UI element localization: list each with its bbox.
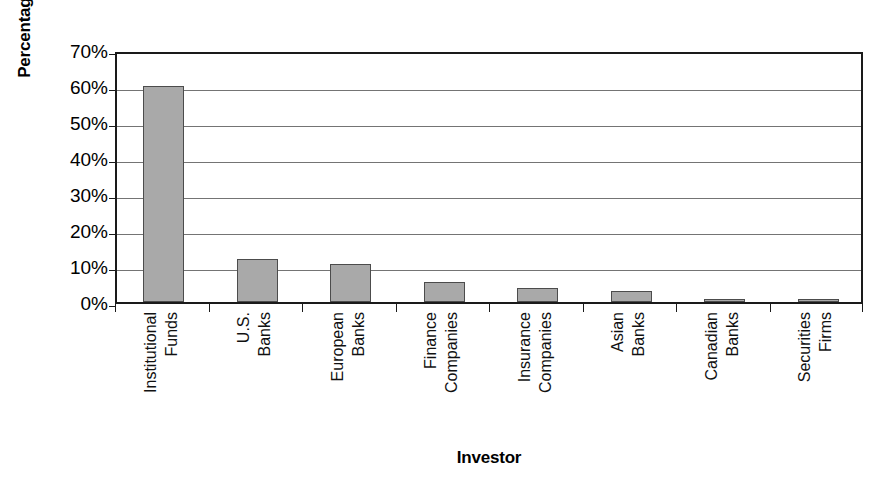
y-axis-tick-label: 20% <box>44 222 108 241</box>
x-axis-category-label-line2: Banks <box>348 312 369 442</box>
x-axis-category-label-line1: European <box>327 312 348 442</box>
x-axis-tick-mark <box>770 304 771 312</box>
x-axis-tick-mark <box>489 304 490 312</box>
x-axis-tick-mark <box>676 304 677 312</box>
x-axis-category-label-line2: Firms <box>815 312 836 442</box>
x-axis-category-label-line1: Institutional <box>140 312 161 442</box>
x-axis-category-label: FinanceCompanies <box>420 312 464 442</box>
y-axis-tick-mark <box>109 162 116 163</box>
x-axis-title: Investor <box>115 448 863 468</box>
x-axis-tick-mark <box>396 304 397 312</box>
y-axis-tick-mark <box>109 90 116 91</box>
x-axis-category-label-line2: Funds <box>161 312 182 442</box>
x-axis-category-labels: InstitutionalFundsU.S.BanksEuropeanBanks… <box>115 314 863 444</box>
x-axis-tick-mark <box>862 304 863 312</box>
x-axis-tick-mark <box>583 304 584 312</box>
x-axis-category-label-line1: Canadian <box>701 312 722 442</box>
x-axis-category-label-line1: Securities <box>794 312 815 442</box>
bar <box>611 291 652 302</box>
x-axis-category-label: CanadianBanks <box>701 312 745 442</box>
x-axis-category-label-line1: Finance <box>420 312 441 442</box>
bar <box>330 264 371 302</box>
y-axis-tick-label: 10% <box>44 258 108 277</box>
x-axis-tick-mark <box>115 304 116 312</box>
plot-area <box>115 52 863 304</box>
figure-caption-sliver <box>8 477 268 486</box>
y-axis-tick-label: 60% <box>44 78 108 97</box>
bar <box>517 288 558 302</box>
bar <box>798 299 839 302</box>
y-axis-tick-label: 0% <box>44 294 108 313</box>
x-axis-category-label: EuropeanBanks <box>327 312 371 442</box>
y-axis-title: Percentage <box>14 0 36 118</box>
y-axis-tick-label: 50% <box>44 114 108 133</box>
y-axis-tick-label: 30% <box>44 186 108 205</box>
x-axis-tick-marks <box>115 304 863 314</box>
x-axis-category-label: InsuranceCompanies <box>514 312 558 442</box>
x-axis-category-label-line2: Banks <box>254 312 275 442</box>
y-axis-tick-mark <box>109 198 116 199</box>
y-axis-tick-labels: 0%10%20%30%40%50%60%70% <box>38 0 108 486</box>
x-axis-category-label-line2: Banks <box>722 312 743 442</box>
y-axis-tick-label: 40% <box>44 150 108 169</box>
bar <box>704 299 745 302</box>
x-axis-category-label: U.S.Banks <box>233 312 277 442</box>
bar-chart-figure: Percentage 0%10%20%30%40%50%60%70% Insti… <box>0 0 886 486</box>
x-axis-tick-mark <box>302 304 303 312</box>
x-axis-category-label-line1: Asian <box>607 312 628 442</box>
y-axis-tick-mark <box>109 54 116 55</box>
y-axis-tick-mark <box>109 234 116 235</box>
x-axis-category-label-line2: Banks <box>628 312 649 442</box>
y-axis-tick-mark <box>109 126 116 127</box>
y-axis-tick-label: 70% <box>44 42 108 61</box>
y-axis-tick-mark <box>109 270 116 271</box>
bar <box>143 86 184 302</box>
bar <box>424 282 465 302</box>
x-axis-category-label-line1: U.S. <box>233 312 254 442</box>
x-axis-category-label: InstitutionalFunds <box>140 312 184 442</box>
x-axis-category-label-line2: Companies <box>535 312 556 442</box>
x-axis-category-label: SecuritiesFirms <box>794 312 838 442</box>
x-axis-category-label-line1: Insurance <box>514 312 535 442</box>
x-axis-category-label-line2: Companies <box>441 312 462 442</box>
x-axis-tick-mark <box>209 304 210 312</box>
x-axis-category-label: AsianBanks <box>607 312 651 442</box>
bars-group <box>117 54 861 302</box>
bar <box>237 259 278 302</box>
